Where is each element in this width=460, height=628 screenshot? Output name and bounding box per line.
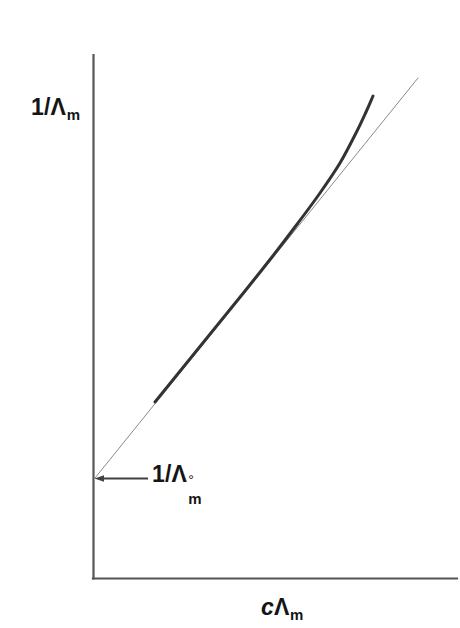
- figure-root: 1/Λm cΛm 1/Λ°m: [0, 0, 460, 628]
- x-axis-label-subscript: m: [290, 606, 304, 623]
- intercept-label-superscript: °: [188, 473, 194, 487]
- x-axis-label-symbol: Λ: [274, 594, 290, 620]
- x-axis-label-variable: c: [261, 594, 274, 620]
- y-axis-label-symbol: Λ: [51, 94, 67, 120]
- intercept-label-prefix: 1/: [152, 461, 172, 487]
- axes-group: [93, 55, 457, 579]
- plot-canvas: [0, 0, 460, 628]
- intercept-leader-group: [95, 475, 149, 482]
- experimental-curve-path: [155, 96, 373, 402]
- intercept-label-symbol: Λ: [172, 461, 188, 487]
- y-axis-label-subscript: m: [67, 106, 81, 123]
- y-axis-label-prefix: 1/: [31, 94, 51, 120]
- x-axis-label: cΛm: [261, 596, 303, 619]
- intercept-annotation-label: 1/Λ°m: [152, 463, 187, 486]
- y-axis-label: 1/Λm: [31, 96, 80, 119]
- intercept-label-subscript: m: [188, 491, 202, 506]
